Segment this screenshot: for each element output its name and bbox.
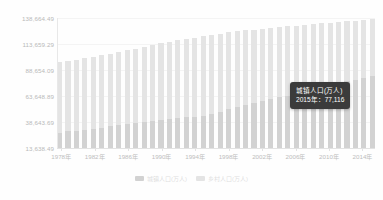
- bar-segment-urban[interactable]: [99, 128, 104, 148]
- bar-segment-rural[interactable]: [260, 29, 265, 102]
- bar-column[interactable]: [243, 30, 248, 148]
- bar-segment-urban[interactable]: [226, 109, 231, 148]
- bar-segment-rural[interactable]: [353, 21, 358, 80]
- bar-segment-rural[interactable]: [344, 21, 349, 81]
- bar-segment-rural[interactable]: [192, 38, 197, 117]
- bar-segment-urban[interactable]: [201, 116, 206, 148]
- bar-column[interactable]: [277, 27, 282, 148]
- bar-segment-rural[interactable]: [142, 47, 147, 122]
- bar-segment-urban[interactable]: [116, 125, 121, 148]
- bar-column[interactable]: [116, 52, 121, 148]
- bar-segment-urban[interactable]: [91, 129, 96, 148]
- bar-column[interactable]: [353, 21, 358, 148]
- bar-segment-urban[interactable]: [353, 80, 358, 148]
- y-axis-tick-label: 88,654.09: [26, 67, 54, 74]
- bar-segment-rural[interactable]: [184, 39, 189, 118]
- bar-column[interactable]: [260, 29, 265, 148]
- bar-segment-rural[interactable]: [175, 40, 180, 118]
- bar-segment-urban[interactable]: [235, 107, 240, 148]
- bar-segment-urban[interactable]: [150, 121, 155, 148]
- bar-segment-urban[interactable]: [82, 130, 87, 148]
- bar-segment-urban[interactable]: [125, 124, 130, 148]
- bar-segment-rural[interactable]: [99, 55, 104, 128]
- bar-segment-rural[interactable]: [311, 24, 316, 90]
- bar-segment-rural[interactable]: [91, 57, 96, 129]
- legend-item[interactable]: 城镇人口(万人): [135, 174, 187, 183]
- bar-column[interactable]: [235, 31, 240, 148]
- bar-segment-urban[interactable]: [243, 105, 248, 148]
- bar-segment-urban[interactable]: [361, 78, 366, 148]
- bar-segment-urban[interactable]: [184, 117, 189, 148]
- bar-segment-rural[interactable]: [209, 35, 214, 114]
- bar-segment-rural[interactable]: [268, 28, 273, 99]
- bar-segment-rural[interactable]: [251, 30, 256, 104]
- bar-segment-urban[interactable]: [209, 114, 214, 148]
- bar-column[interactable]: [175, 40, 180, 148]
- bar-column[interactable]: [65, 61, 70, 148]
- bar-segment-rural[interactable]: [150, 45, 155, 121]
- bar-column[interactable]: [201, 36, 206, 148]
- bar-segment-rural[interactable]: [116, 52, 121, 125]
- bar-segment-urban[interactable]: [277, 97, 282, 148]
- bar-segment-rural[interactable]: [82, 58, 87, 130]
- bar-column[interactable]: [82, 58, 87, 148]
- bar-segment-urban[interactable]: [108, 126, 113, 148]
- bar-segment-rural[interactable]: [133, 49, 138, 123]
- bar-column[interactable]: [158, 43, 163, 148]
- bar-segment-rural[interactable]: [65, 61, 70, 132]
- bar-column[interactable]: [226, 32, 231, 148]
- bar-column[interactable]: [209, 35, 214, 148]
- bar-segment-rural[interactable]: [370, 19, 375, 76]
- bar-segment-urban[interactable]: [167, 119, 172, 148]
- bar-column[interactable]: [74, 60, 79, 148]
- bar-segment-rural[interactable]: [108, 54, 113, 127]
- bar-segment-rural[interactable]: [125, 50, 130, 124]
- legend-swatch-icon: [196, 176, 205, 181]
- bar-column[interactable]: [370, 19, 375, 148]
- bar-segment-rural[interactable]: [361, 20, 366, 78]
- bar-column[interactable]: [167, 42, 172, 148]
- bar-column[interactable]: [218, 34, 223, 148]
- bar-segment-rural[interactable]: [158, 43, 163, 120]
- legend-item[interactable]: 乡村人口(万人): [196, 174, 248, 183]
- bar-segment-rural[interactable]: [74, 60, 79, 131]
- bar-segment-rural[interactable]: [218, 34, 223, 112]
- bar-column[interactable]: [361, 20, 366, 148]
- bar-segment-urban[interactable]: [218, 112, 223, 148]
- bar-column[interactable]: [108, 54, 113, 148]
- bar-column[interactable]: [268, 28, 273, 148]
- bar-segment-urban[interactable]: [133, 123, 138, 148]
- bar-segment-urban[interactable]: [370, 76, 375, 148]
- bar-segment-rural[interactable]: [201, 36, 206, 115]
- x-axis-tick-label: 2014年: [353, 152, 373, 161]
- bar-segment-rural[interactable]: [277, 27, 282, 97]
- bar-column[interactable]: [192, 38, 197, 148]
- bar-column[interactable]: [91, 56, 96, 148]
- bar-segment-rural[interactable]: [319, 23, 324, 87]
- bar-segment-urban[interactable]: [175, 118, 180, 148]
- bar-column[interactable]: [142, 47, 147, 148]
- legend-label: 城镇人口(万人): [147, 174, 187, 183]
- bar-column[interactable]: [99, 55, 104, 148]
- x-axis-tickmark: [362, 148, 363, 151]
- bar-segment-rural[interactable]: [226, 32, 231, 109]
- bar-segment-urban[interactable]: [65, 131, 70, 148]
- bar-column[interactable]: [251, 29, 256, 148]
- x-axis-tick-label: 1982年: [85, 152, 105, 161]
- bar-column[interactable]: [184, 39, 189, 148]
- bar-segment-rural[interactable]: [336, 22, 341, 83]
- bar-segment-rural[interactable]: [235, 31, 240, 107]
- bar-segment-urban[interactable]: [74, 131, 79, 148]
- bar-segment-urban[interactable]: [268, 99, 273, 148]
- bar-segment-urban[interactable]: [251, 103, 256, 148]
- bar-segment-rural[interactable]: [328, 23, 333, 86]
- bar-segment-urban[interactable]: [142, 122, 147, 148]
- bar-segment-urban[interactable]: [260, 101, 265, 148]
- bar-segment-rural[interactable]: [243, 30, 248, 105]
- bar-column[interactable]: [150, 45, 155, 148]
- bar-segment-urban[interactable]: [158, 120, 163, 148]
- bar-column[interactable]: [133, 49, 138, 148]
- bar-column[interactable]: [125, 50, 130, 148]
- bar-segment-rural[interactable]: [167, 42, 172, 120]
- bar-segment-urban[interactable]: [192, 117, 197, 148]
